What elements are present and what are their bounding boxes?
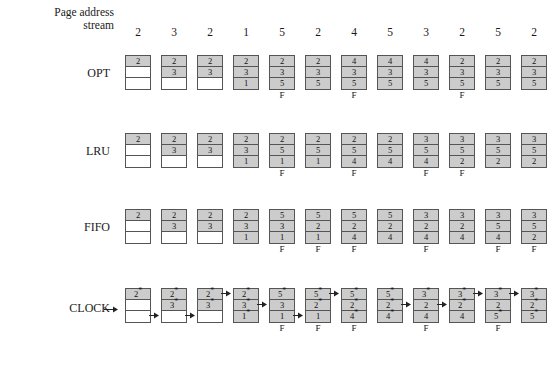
algorithm-columns: 22323231251F251254F254354F352F352352 <box>120 133 552 168</box>
page-frame-cell: 5 <box>522 78 546 89</box>
page-frame-set: 235 <box>449 55 475 90</box>
page-frame-cell: 5 <box>270 210 294 221</box>
memory-state-column: 2 <box>120 209 156 244</box>
stream-value: 1 <box>228 24 264 40</box>
page-frame-set: 2* <box>125 288 151 323</box>
memory-state-column: 2 <box>120 133 156 168</box>
page-frame-cell: 1 <box>234 232 258 243</box>
page-frame-cell: 3* <box>414 289 438 300</box>
page-frame-cell: 4 <box>450 311 474 322</box>
stream-value: 3 <box>408 24 444 40</box>
page-frame-cell: 4 <box>342 56 366 67</box>
page-frame-cell: 3 <box>198 221 222 232</box>
page-frame-cell: 5 <box>342 145 366 156</box>
memory-state-column: 23 <box>156 209 192 244</box>
page-number: 3 <box>424 67 428 77</box>
page-number: 2 <box>532 56 536 66</box>
page-frame-cell <box>126 67 150 78</box>
use-bit-asterisk: * <box>174 286 178 295</box>
page-number: 3 <box>460 67 464 77</box>
use-bit-asterisk: * <box>534 297 538 306</box>
page-frame-set: 2 <box>125 55 151 90</box>
memory-state-column: 5*2*4*F <box>336 288 372 323</box>
page-number: 5 <box>496 221 500 231</box>
page-frame-set: 231 <box>233 133 259 168</box>
page-frame-cell: 5 <box>378 145 402 156</box>
page-frame-cell: 3 <box>522 134 546 145</box>
page-number: 5 <box>388 78 392 88</box>
page-replacement-figure: Page address stream 232152453252 OPT2232… <box>0 0 552 365</box>
use-bit-asterisk: * <box>534 308 538 317</box>
page-frame-cell: 3 <box>198 145 222 156</box>
page-frame-cell: 3 <box>486 134 510 145</box>
page-number: 3 <box>244 145 248 155</box>
page-number: 3 <box>172 67 176 77</box>
page-frame-cell <box>126 78 150 89</box>
page-fault-marker: F <box>444 168 480 178</box>
stream-value: 2 <box>192 24 228 40</box>
page-frame-cell: 2 <box>234 56 258 67</box>
memory-state-column: 235 <box>300 55 336 90</box>
page-number: 2 <box>316 134 320 144</box>
page-number: 2 <box>460 221 464 231</box>
page-frame-cell: 4 <box>342 232 366 243</box>
page-number: 1 <box>244 78 248 88</box>
memory-state-column: 521F <box>300 209 336 244</box>
page-frame-cell: 2 <box>162 56 186 67</box>
memory-state-column: 435F <box>336 55 372 90</box>
page-number: 2 <box>424 221 428 231</box>
page-number: 5 <box>532 78 536 88</box>
page-number: 4 <box>460 232 464 242</box>
memory-state-column: 235 <box>480 55 516 90</box>
page-frame-cell: 3* <box>162 300 186 311</box>
page-frame-cell: 5* <box>522 311 546 322</box>
use-bit-asterisk: * <box>246 297 250 306</box>
use-bit-asterisk: * <box>462 297 466 306</box>
page-fault-marker: F <box>408 323 444 333</box>
page-frame-cell: 4 <box>414 56 438 67</box>
page-frame-set: 435 <box>413 55 439 90</box>
page-frame-cell <box>126 311 150 322</box>
memory-state-column: 435 <box>372 55 408 90</box>
page-frame-cell: 2 <box>306 56 330 67</box>
page-frame-cell: 4 <box>378 56 402 67</box>
page-number: 5 <box>388 145 392 155</box>
memory-state-column: 3*24F <box>408 288 444 323</box>
use-bit-asterisk: * <box>462 286 466 295</box>
use-bit-asterisk: * <box>390 286 394 295</box>
page-frame-cell: 2* <box>126 289 150 300</box>
page-frame-cell: 4 <box>414 156 438 167</box>
page-frame-cell: 5 <box>378 78 402 89</box>
page-number: 3 <box>532 67 536 77</box>
page-frame-cell: 3 <box>486 67 510 78</box>
memory-state-column: 231 <box>228 133 264 168</box>
page-fault-marker: F <box>300 323 336 333</box>
page-number: 5 <box>316 78 320 88</box>
page-frame-cell: 2 <box>306 134 330 145</box>
page-number: 3 <box>352 67 356 77</box>
page-frame-cell: 3 <box>270 300 294 311</box>
page-frame-cell: 1 <box>306 232 330 243</box>
page-address-stream-label: Page address stream <box>6 6 114 32</box>
page-number: 4 <box>424 56 428 66</box>
page-frame-cell <box>162 156 186 167</box>
page-frame-cell: 3 <box>234 67 258 78</box>
page-frame-set: 5*2*4* <box>377 288 403 323</box>
page-frame-cell: 5 <box>450 78 474 89</box>
page-number: 3 <box>424 210 428 220</box>
page-number: 5 <box>496 145 500 155</box>
page-frame-cell: 2 <box>162 210 186 221</box>
page-number: 5 <box>280 210 284 220</box>
page-frame-cell: 5 <box>486 221 510 232</box>
memory-state-column: 23 <box>156 133 192 168</box>
page-frame-cell: 2 <box>522 156 546 167</box>
page-frame-cell <box>198 156 222 167</box>
page-frame-cell: 5 <box>306 145 330 156</box>
memory-state-column: 524F <box>336 209 372 244</box>
page-frame-cell: 5 <box>414 78 438 89</box>
page-number: 5 <box>316 210 320 220</box>
page-fault-marker: F <box>336 90 372 100</box>
page-number: 4 <box>352 232 356 242</box>
page-number: 2 <box>280 56 284 66</box>
memory-state-column: 5*31F <box>264 288 300 323</box>
